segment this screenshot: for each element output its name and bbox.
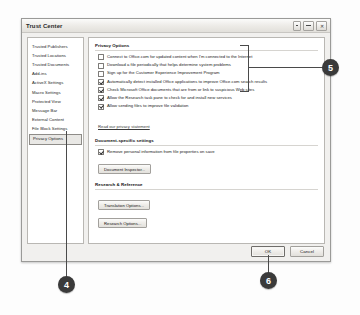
checkbox-icon[interactable] [98, 54, 104, 60]
checkbox-row-remove-personal-info[interactable]: Remove personal information from file pr… [98, 149, 318, 155]
sidebar-item-activex-settings[interactable]: ActiveX Settings [28, 79, 83, 88]
cancel-button[interactable]: Cancel [290, 246, 324, 257]
sidebar-item-trusted-publishers[interactable]: Trusted Publishers [28, 42, 83, 51]
checkbox-label: Check Microsoft Office documents that ar… [107, 87, 254, 92]
checkbox-row-check-suspicious-sites[interactable]: Check Microsoft Office documents that ar… [98, 87, 318, 93]
dialog-footer: OK Cancel [251, 246, 324, 257]
translation-options-row: Translation Options... [95, 193, 318, 211]
research-options-row: Research Options... [95, 211, 318, 229]
checkbox-icon[interactable] [98, 71, 104, 77]
sidebar-item-file-block-settings[interactable]: File Block Settings [28, 125, 83, 134]
checkbox-label: Download a file periodically that helps … [107, 62, 231, 67]
restore-button[interactable] [303, 21, 314, 31]
privacy-statement-row: Read our privacy statement [98, 114, 318, 132]
sidebar-item-trusted-documents[interactable]: Trusted Documents [28, 60, 83, 69]
trust-center-dialog: Trust Center ✕ Trusted Publishers Truste… [21, 18, 331, 262]
checkbox-row-allow-file-validation[interactable]: Allow sending files to improve file vali… [98, 103, 318, 109]
callout-5-leader [248, 67, 324, 68]
sidebar-item-protected-view[interactable]: Protected View [28, 97, 83, 106]
checkbox-label: Sign up for the Customer Experience Impr… [107, 70, 220, 75]
translation-options-button[interactable]: Translation Options... [98, 200, 150, 210]
checkbox-label: Connect to Office.com for updated conten… [107, 54, 252, 59]
research-reference-heading: Research & Reference [95, 182, 318, 190]
callout-marker-5: 5 [322, 59, 339, 76]
checkbox-row-customer-experience-program[interactable]: Sign up for the Customer Experience Impr… [98, 70, 318, 76]
dialog-title: Trust Center [22, 23, 63, 29]
checkbox-icon[interactable] [98, 87, 104, 93]
sidebar-item-macro-settings[interactable]: Macro Settings [28, 88, 83, 97]
document-inspector-row: Document Inspector... [95, 157, 318, 175]
callout-marker-4: 4 [58, 276, 75, 293]
document-inspector-button[interactable]: Document Inspector... [98, 164, 151, 174]
sidebar-item-add-ins[interactable]: Add-ins [28, 70, 83, 79]
document-specific-heading: Document-specific settings [95, 138, 318, 146]
checkbox-icon[interactable] [98, 79, 104, 85]
checkbox-row-detect-installed-apps[interactable]: Automatically detect installed Office ap… [98, 79, 318, 85]
checkbox-row-connect-office-com[interactable]: Connect to Office.com for updated conten… [98, 54, 318, 60]
checkbox-label: Remove personal information from file pr… [107, 149, 215, 154]
window-controls: ✕ [293, 21, 327, 31]
settings-category-list: Trusted Publishers Trusted Locations Tru… [27, 37, 84, 244]
minimize-button[interactable] [293, 21, 301, 31]
callout-4-leader [66, 131, 67, 279]
privacy-statement-link[interactable]: Read our privacy statement [98, 124, 150, 129]
checkbox-row-research-task-pane[interactable]: Allow the Research task pane to check fo… [98, 95, 318, 101]
callout-5-bracket [240, 45, 249, 92]
checkbox-label: Allow sending files to improve file vali… [107, 103, 188, 108]
page-background: Trust Center ✕ Trusted Publishers Truste… [0, 0, 360, 315]
privacy-options-heading: Privacy Options [95, 43, 318, 51]
dialog-titlebar[interactable]: Trust Center ✕ [22, 19, 330, 33]
sidebar-item-trusted-locations[interactable]: Trusted Locations [28, 51, 83, 60]
close-icon[interactable]: ✕ [316, 21, 327, 31]
sidebar-item-external-content[interactable]: External Content [28, 116, 83, 125]
checkbox-icon[interactable] [98, 149, 104, 155]
callout-marker-6: 6 [260, 272, 277, 289]
sidebar-item-message-bar[interactable]: Message Bar [28, 106, 83, 115]
checkbox-icon[interactable] [98, 63, 104, 69]
research-options-button[interactable]: Research Options... [98, 218, 147, 228]
sidebar-item-privacy-options[interactable]: Privacy Options [29, 134, 82, 145]
checkbox-icon[interactable] [98, 104, 104, 110]
checkbox-icon[interactable] [98, 95, 104, 101]
checkbox-label: Allow the Research task pane to check fo… [107, 95, 232, 100]
